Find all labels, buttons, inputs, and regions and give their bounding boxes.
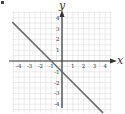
y-tick-label: -3 <box>54 90 60 96</box>
x-axis-arrow-icon <box>110 59 117 64</box>
x-tick-label: 3 <box>93 63 97 69</box>
y-tick-label: -4 <box>54 101 60 107</box>
x-tick-label: -2 <box>38 63 43 69</box>
y-tick-label: -1 <box>54 69 59 75</box>
y-tick-label: 1 <box>56 47 60 53</box>
coordinate-graph: -4-3-2-112344321-1-2-3-4 x y <box>0 0 125 114</box>
x-tick-label: 2 <box>82 63 86 69</box>
y-tick-label: 3 <box>56 26 60 32</box>
y-tick-label: 4 <box>56 15 60 21</box>
y-tick-label: 2 <box>56 36 60 42</box>
x-tick-label: 1 <box>71 63 75 69</box>
x-tick-label: 4 <box>103 63 107 69</box>
x-axis-label: x <box>117 54 124 67</box>
y-tick-label: -2 <box>54 80 59 86</box>
x-tick-label: -3 <box>27 63 33 69</box>
x-tick-label: -4 <box>16 63 22 69</box>
y-axis-label: y <box>58 0 66 12</box>
